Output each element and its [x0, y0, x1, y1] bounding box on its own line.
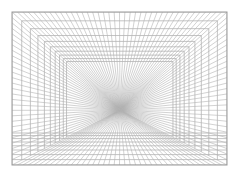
radial-line	[39, 12, 120, 110]
radial-line	[17, 12, 120, 110]
radial-line	[120, 110, 216, 165]
radial-line	[77, 110, 121, 165]
radial-line	[23, 110, 120, 165]
radial-line	[120, 110, 206, 165]
radial-line	[12, 110, 120, 154]
radial-line	[34, 110, 121, 165]
radial-line	[120, 12, 121, 110]
radial-line	[120, 12, 200, 110]
radial-line	[120, 110, 163, 165]
perspective-grid-diagram	[0, 0, 241, 187]
radial-line	[120, 12, 222, 110]
radial-line	[120, 110, 227, 154]
radial-line	[12, 28, 120, 110]
radial-line	[120, 34, 227, 110]
radial-line	[120, 110, 121, 165]
radial-line	[120, 12, 195, 110]
radial-line	[12, 23, 120, 110]
radial-line	[120, 110, 195, 165]
radial-line	[120, 28, 227, 110]
radial-line	[12, 34, 120, 110]
perspective-grid-svg	[0, 0, 241, 187]
grid-lines	[12, 12, 227, 165]
radial-line	[44, 110, 120, 165]
